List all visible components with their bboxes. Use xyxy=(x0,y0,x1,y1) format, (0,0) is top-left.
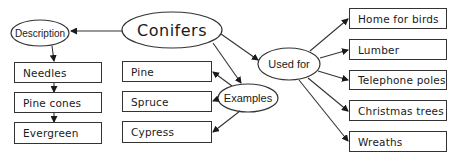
example-item-cypress: Cypress xyxy=(122,121,212,143)
use-item-wreaths: Wreaths xyxy=(349,131,447,152)
example-item-pine: Pine xyxy=(122,61,212,82)
branch-node-examples: Examples xyxy=(218,84,278,112)
use-item-lumber: Lumber xyxy=(349,39,447,60)
description-item-pine-cones: Pine cones xyxy=(14,92,102,113)
branch-node-description: Description xyxy=(11,20,69,46)
use-item-christmas-trees: Christmas trees xyxy=(349,100,447,121)
use-item-telephone-poles: Telephone poles xyxy=(349,70,447,90)
description-item-evergreen: Evergreen xyxy=(14,122,102,144)
concept-map: Conifers Description Examples Used for N… xyxy=(0,0,460,161)
example-item-spruce: Spruce xyxy=(122,91,212,112)
central-node-conifers: Conifers xyxy=(122,12,222,48)
description-item-needles: Needles xyxy=(14,62,102,83)
use-item-home-for-birds: Home for birds xyxy=(349,8,447,29)
branch-node-used-for: Used for xyxy=(258,48,320,80)
